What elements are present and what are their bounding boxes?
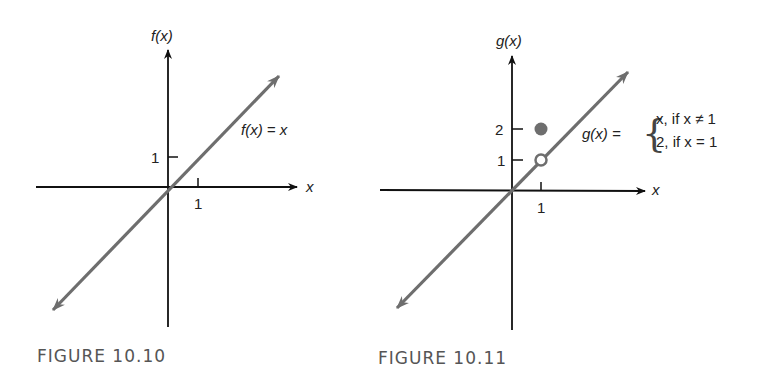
piecewise-case-1: x, if x ≠ 1 [656,108,716,130]
y-tick-label-1: 1 [151,150,159,165]
y-tick-label-1: 1 [497,153,505,168]
figure-caption: FIGURE 10.11 [378,350,507,367]
figure-10-11-plot [360,0,771,379]
x-axis-label: x [652,182,660,197]
figure-10-11: g(x) x 2 1 1 g(x) = { x, if x ≠ 1 2, if … [360,0,771,379]
x-tick-label-1: 1 [194,196,202,211]
y-axis-label: g(x) [496,33,522,48]
x-tick-label-1: 1 [537,200,545,215]
function-label: f(x) = x [241,122,287,137]
function-line-f [53,76,279,310]
figure-caption: FIGURE 10.10 [37,348,166,365]
function-label: g(x) = [582,126,621,141]
y-tick-label-2: 2 [495,122,503,137]
open-point [536,155,547,166]
y-axis-label: f(x) [151,28,173,43]
x-axis-label: x [306,179,314,194]
filled-point [535,123,548,136]
piecewise-case-2: 2, if x = 1 [656,131,717,153]
figure-10-10: f(x) x 1 1 f(x) = x FIGURE 10.10 [0,0,360,379]
